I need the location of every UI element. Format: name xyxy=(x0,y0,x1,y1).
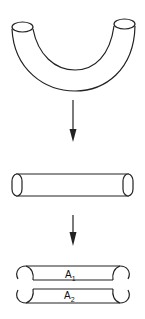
bent-tube-outer-wall xyxy=(12,26,135,91)
label-a1: A1 xyxy=(65,269,76,282)
bent-tube-right-opening xyxy=(114,19,135,29)
straight-tube xyxy=(12,174,133,196)
split-tube-top-right-curve xyxy=(113,266,120,280)
label-a2: A2 xyxy=(64,290,75,303)
straight-tube-right-end xyxy=(123,174,133,196)
arrow-down-icon xyxy=(70,215,77,246)
bent-tube-inner-wall xyxy=(33,26,114,70)
diagram-canvas: A1 A2 xyxy=(0,0,145,319)
bent-tube xyxy=(12,19,135,91)
straight-tube-left-end xyxy=(12,174,22,196)
bent-tube-left-opening xyxy=(12,22,33,32)
split-tube-bottom-left-curve xyxy=(26,289,33,303)
split-tube: A1 A2 xyxy=(17,266,130,303)
split-tube-top-left-curve xyxy=(26,266,33,280)
arrow-down-icon xyxy=(70,100,77,142)
split-tube-bottom-right-curve xyxy=(113,289,120,303)
